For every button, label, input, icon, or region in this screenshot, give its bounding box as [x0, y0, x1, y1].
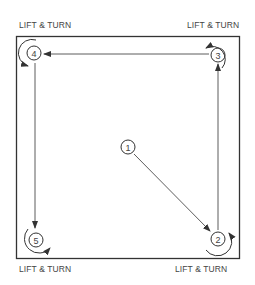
diagram-canvas: 1 2 3 4 5: [0, 0, 255, 285]
arrow-1-to-2: [134, 154, 210, 231]
step-1-marker: 1: [121, 140, 135, 154]
step-4-marker: 4: [18, 39, 41, 66]
step-3-marker: 3: [206, 46, 225, 68]
step-2-number: 2: [215, 235, 220, 245]
step-5-number: 5: [33, 236, 38, 246]
step-4-number: 4: [31, 49, 36, 59]
step-3-number: 3: [215, 51, 220, 61]
step-5-marker: 5: [24, 229, 50, 253]
step-1-number: 1: [125, 143, 130, 153]
step-2-marker: 2: [206, 232, 232, 256]
